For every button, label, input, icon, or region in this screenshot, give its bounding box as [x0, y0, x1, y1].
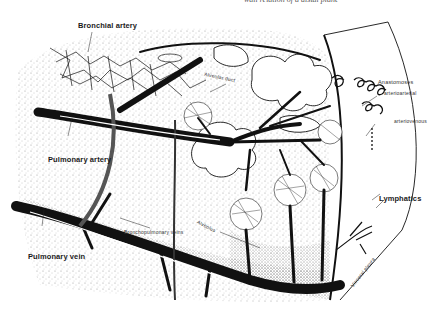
- label-lymphatics: Lymphatics: [379, 195, 421, 203]
- label-arteriovenous: arteriovenous: [394, 119, 427, 124]
- label-bronchial-artery: Bronchial artery: [78, 22, 137, 30]
- label-bronchopulmonary-veins: Bronchopulmonary veins: [124, 230, 183, 235]
- label-pulmonary-artery: Pulmonary artery: [48, 156, 111, 164]
- label-pulmonary-vein: Pulmonary vein: [28, 253, 85, 261]
- top-caption-fragment: wall relation of a distal plane: [244, 0, 339, 4]
- lymphatic-vessels: [336, 222, 372, 254]
- label-anastomoses: Anastomoses: [378, 80, 414, 86]
- lung-vasculature-diagram: wall relation of a distal plane Bronchia…: [0, 0, 448, 322]
- label-arterioarterial: arterioarterial: [384, 91, 416, 96]
